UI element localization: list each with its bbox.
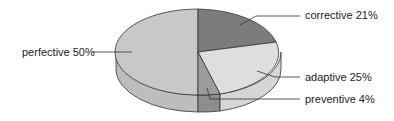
label-perfective: perfective 50% [22, 46, 95, 58]
label-corrective: corrective 21% [305, 9, 378, 21]
label-adaptive: adaptive 25% [305, 71, 372, 83]
label-preventive: preventive 4% [305, 93, 375, 105]
